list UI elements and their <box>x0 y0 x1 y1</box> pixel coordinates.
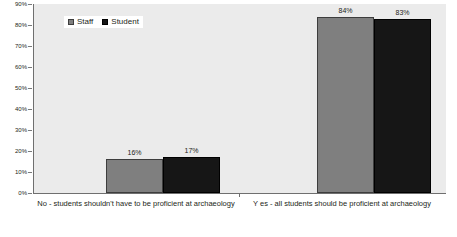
y-tick-label: 50% <box>15 85 27 92</box>
y-tick-mark <box>28 25 32 26</box>
bar-value-label: 84% <box>338 7 352 15</box>
legend-item-staff: Staff <box>68 18 93 26</box>
category-label-yes: Y es - all students should be proficient… <box>243 199 441 209</box>
y-tick-label: 40% <box>15 106 27 113</box>
bar-staff-0 <box>106 159 163 193</box>
y-tick-mark <box>28 46 32 47</box>
bar-value-label: 83% <box>395 9 409 17</box>
y-tick-mark <box>28 67 32 68</box>
y-tick-mark <box>28 88 32 89</box>
y-tick-mark <box>28 193 32 194</box>
legend-label-staff: Staff <box>77 18 93 26</box>
legend-swatch-staff-icon <box>68 19 74 25</box>
y-axis: 0%10%20%30%40%50%60%70%80%90% <box>0 0 31 196</box>
y-tick-label: 20% <box>15 148 27 155</box>
bar-chart: 0%10%20%30%40%50%60%70%80%90% 16%84%17%8… <box>0 0 457 237</box>
y-tick-label: 70% <box>15 43 27 50</box>
y-tick-label: 0% <box>18 190 27 197</box>
y-tick-mark <box>28 109 32 110</box>
category-label-no: No - students shouldn't have to be profi… <box>37 199 235 209</box>
y-tick-label: 10% <box>15 169 27 176</box>
plot-area: 16%84%17%83% <box>33 4 446 194</box>
plot-inner: 16%84%17%83% <box>34 4 446 193</box>
bar-student-1 <box>374 19 431 193</box>
category-separator-tick <box>239 193 240 197</box>
y-tick-label: 30% <box>15 127 27 134</box>
legend-item-student: Student <box>102 18 139 26</box>
bar-staff-1 <box>317 17 374 193</box>
bar-value-label: 16% <box>127 149 141 157</box>
chart-legend: Staff Student <box>64 16 143 28</box>
bar-value-label: 17% <box>184 147 198 155</box>
y-tick-mark <box>28 172 32 173</box>
legend-swatch-student-icon <box>102 19 108 25</box>
y-tick-mark <box>28 4 32 5</box>
y-tick-label: 90% <box>15 1 27 8</box>
y-tick-mark <box>28 151 32 152</box>
y-tick-label: 60% <box>15 64 27 71</box>
y-tick-label: 80% <box>15 22 27 29</box>
bar-student-0 <box>163 157 220 193</box>
legend-label-student: Student <box>111 18 139 26</box>
y-tick-mark <box>28 130 32 131</box>
